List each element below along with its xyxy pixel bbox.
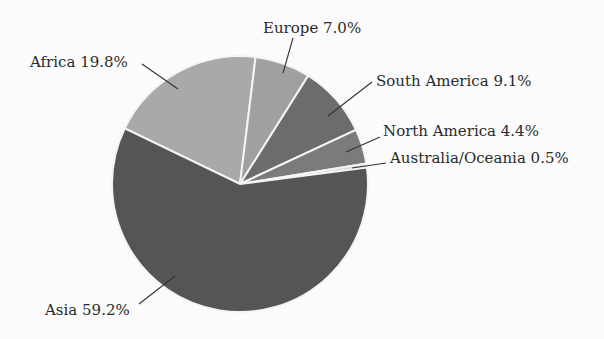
label-europe: Europe 7.0% [263, 19, 361, 37]
pie-chart: Africa 19.8% Europe 7.0% South America 9… [0, 0, 604, 339]
label-north-america: North America 4.4% [383, 122, 539, 140]
pie-slices [112, 56, 368, 312]
label-australia-oceania: Australia/Oceania 0.5% [389, 149, 569, 167]
label-south-america: South America 9.1% [376, 72, 532, 90]
label-asia: Asia 59.2% [44, 301, 130, 319]
label-africa: Africa 19.8% [29, 53, 128, 71]
